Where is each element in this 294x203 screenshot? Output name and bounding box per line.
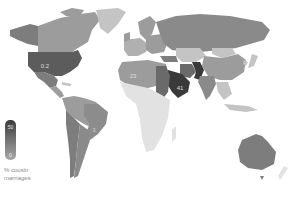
region-canada[interactable] (38, 12, 100, 52)
region-tasmania[interactable] (260, 176, 264, 180)
legend-max-label: 50 (5, 124, 16, 130)
legend-min-label: 0 (5, 152, 16, 158)
region-greenland[interactable] (96, 8, 126, 34)
world-map (0, 0, 294, 203)
region-kazakhstan[interactable] (176, 48, 206, 62)
region-russia[interactable] (156, 14, 270, 52)
legend-caption-line1: % cousin (4, 166, 44, 174)
region-indonesia[interactable] (224, 104, 258, 112)
region-caribbean[interactable] (62, 82, 72, 86)
region-australia[interactable] (238, 134, 276, 170)
region-new-zealand[interactable] (278, 166, 288, 180)
label-saudi-arabia: 41 (177, 85, 184, 91)
region-japan[interactable] (248, 54, 258, 68)
region-turkey[interactable] (160, 56, 178, 62)
label-south-america: 3 (92, 127, 95, 133)
region-canada-arctic[interactable] (60, 8, 84, 16)
legend-caption-line2: marriages (4, 174, 44, 182)
region-india[interactable] (198, 76, 216, 100)
region-madagascar[interactable] (172, 126, 176, 142)
region-southeast-asia[interactable] (216, 82, 232, 100)
label-north-africa: 23 (130, 73, 137, 79)
legend-caption: % cousin marriages (4, 166, 44, 182)
label-united-states: 0.2 (41, 63, 49, 69)
region-central-america[interactable] (50, 86, 64, 98)
region-alaska[interactable] (10, 24, 38, 46)
